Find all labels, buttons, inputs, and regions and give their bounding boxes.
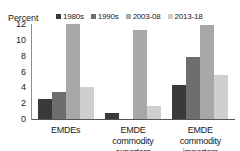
x-axis-category-labels: EMDEsEMDE commodity exportersEMDE commod… <box>32 121 234 151</box>
bar-groups <box>32 24 234 119</box>
legend-item-1980s[interactable]: 1980s <box>56 12 84 21</box>
bar[interactable] <box>52 92 66 119</box>
bars <box>167 24 234 119</box>
bar[interactable] <box>133 30 147 119</box>
bar[interactable] <box>186 57 200 119</box>
y-axis-tick-6: 6 <box>21 67 26 76</box>
bar-chart: Percent 1980s 1990s 2003-08 2013-18 0246… <box>0 0 240 151</box>
legend-swatch-2013-18 <box>168 14 173 19</box>
y-axis-ticks: 024681012 <box>0 24 30 119</box>
legend-item-1990s[interactable]: 1990s <box>91 12 119 21</box>
legend-label-1980s: 1980s <box>63 12 84 21</box>
bar[interactable] <box>105 113 119 119</box>
bar[interactable] <box>200 25 214 119</box>
y-axis-tick-2: 2 <box>21 99 26 108</box>
bar[interactable] <box>172 85 186 119</box>
legend-item-2013-18[interactable]: 2013-18 <box>168 12 203 21</box>
x-axis-label: EMDE commodity exporters <box>99 121 166 151</box>
bar[interactable] <box>147 106 161 119</box>
x-axis-label: EMDE commodity importers <box>167 121 234 151</box>
legend-swatch-2003-08 <box>126 14 131 19</box>
bar[interactable] <box>214 75 228 119</box>
bar-group <box>32 24 99 119</box>
y-axis-tick-0: 0 <box>21 115 26 124</box>
bar[interactable] <box>38 99 52 119</box>
y-axis-tick-12: 12 <box>16 20 26 29</box>
plot-area <box>32 24 234 119</box>
bar[interactable] <box>66 24 80 119</box>
chart-legend: 1980s 1990s 2003-08 2013-18 <box>56 12 203 21</box>
bar-group <box>167 24 234 119</box>
legend-item-2003-08[interactable]: 2003-08 <box>126 12 161 21</box>
bar-group <box>99 24 166 119</box>
legend-label-2013-18: 2013-18 <box>175 12 203 21</box>
legend-swatch-1990s <box>91 14 96 19</box>
x-axis-line <box>32 119 235 120</box>
x-axis-label: EMDEs <box>32 121 99 151</box>
bar[interactable] <box>80 87 94 119</box>
y-axis-tick-4: 4 <box>21 83 26 92</box>
bars <box>99 24 166 119</box>
y-axis-tick-10: 10 <box>16 35 26 44</box>
legend-swatch-1980s <box>56 14 61 19</box>
legend-label-1990s: 1990s <box>98 12 119 21</box>
bars <box>32 24 99 119</box>
y-axis-tick-8: 8 <box>21 51 26 60</box>
legend-label-2003-08: 2003-08 <box>133 12 161 21</box>
